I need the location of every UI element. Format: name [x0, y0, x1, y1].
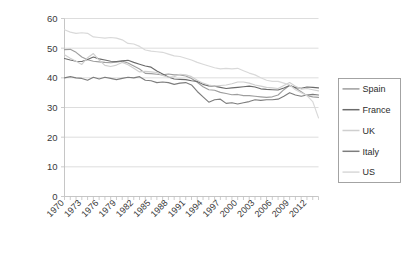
x-tick-label: 1970 [45, 198, 66, 219]
x-tick-label: 2009 [270, 198, 291, 219]
y-tick-label: 20 [47, 132, 58, 143]
x-tick-label: 1985 [131, 198, 152, 219]
series-line-us [65, 30, 319, 118]
legend-label-us: US [363, 167, 376, 177]
series-line-spain [65, 49, 319, 97]
x-tick-label: 1991 [166, 198, 187, 219]
x-tick-label: 1997 [201, 198, 222, 219]
y-axis-labels: 0102030405060 [47, 13, 58, 202]
legend-label-spain: Spain [363, 84, 386, 94]
legend-label-uk: UK [363, 126, 376, 136]
x-tick-label: 1982 [114, 198, 135, 219]
series-lines [65, 30, 319, 118]
chart-legend: SpainFranceUKItalyUS [339, 79, 401, 183]
y-tick-label: 30 [47, 102, 58, 113]
x-tick-label: 2000 [218, 198, 239, 219]
y-tick-label: 40 [47, 72, 58, 83]
x-tick-label: 2012 [287, 198, 308, 219]
line-chart: 0102030405060 19701973197619791982198519… [0, 0, 405, 253]
y-tick-label: 50 [47, 43, 58, 54]
x-tick-label: 1976 [79, 198, 100, 219]
x-tick-label: 2006 [252, 198, 273, 219]
y-tick-label: 60 [47, 13, 58, 24]
x-tick-label: 1979 [97, 198, 118, 219]
axis-tickmarks [61, 19, 319, 201]
x-axis-labels: 1970197319761979198219851988199119941997… [45, 198, 309, 219]
legend-label-france: France [363, 105, 391, 115]
x-tick-label: 2003 [235, 198, 256, 219]
x-tick-label: 1973 [62, 198, 83, 219]
legend-label-italy: Italy [363, 147, 380, 157]
x-tick-label: 1988 [149, 198, 170, 219]
x-tick-label: 1994 [183, 198, 204, 219]
y-tick-label: 10 [47, 161, 58, 172]
chart-canvas: 0102030405060 19701973197619791982198519… [0, 0, 405, 253]
